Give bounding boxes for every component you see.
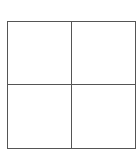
grid-cell-top-right — [72, 22, 135, 85]
grid-cell-bottom-right — [72, 85, 135, 148]
grid-cell-top-left — [8, 22, 72, 85]
two-by-two-grid — [7, 21, 136, 149]
grid-cell-bottom-left — [8, 85, 72, 148]
